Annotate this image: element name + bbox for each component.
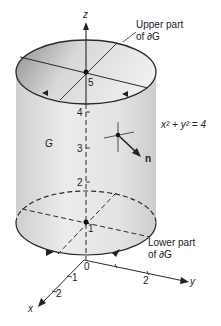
lower-part-label-line2: of ∂G	[148, 249, 172, 260]
x-tick-1: 1	[72, 272, 78, 283]
x-axis-arrow-icon	[38, 298, 46, 307]
upper-part-label-line1: Upper part	[136, 19, 183, 30]
z-tick-4: 4	[77, 107, 83, 118]
upper-part-label-line2: of ∂G	[136, 31, 160, 42]
origin-label: 0	[84, 261, 90, 272]
cylinder-equation: x² + y² = 4	[160, 119, 206, 130]
upper-label-leader	[123, 32, 136, 42]
y-tick-2: 2	[143, 275, 149, 286]
x-tick-2: 2	[56, 288, 62, 299]
region-label: G	[45, 138, 53, 149]
y-axis-label: y	[189, 276, 196, 287]
lower-part-label-line1: Lower part	[148, 237, 195, 248]
z-axis-arrow-icon	[83, 22, 89, 30]
x-axis-label: x	[27, 303, 34, 314]
z-axis-label: z	[82, 9, 88, 20]
cylinder-boundary-diagram: z Upper part of ∂G 5 4 3 2 1 G x² + y² =…	[0, 0, 221, 326]
normal-label: n	[145, 153, 151, 164]
z-tick-5: 5	[88, 77, 94, 88]
z-tick-1: 1	[88, 223, 94, 234]
z-tick-2: 2	[77, 177, 83, 188]
y-axis-arrow-icon	[180, 277, 189, 284]
xy-axes	[38, 260, 189, 307]
z-tick-3: 3	[77, 143, 83, 154]
point-z5	[84, 70, 89, 75]
